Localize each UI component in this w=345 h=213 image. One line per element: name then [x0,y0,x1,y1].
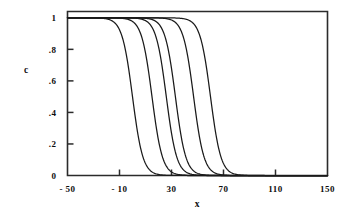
curve-front-5 [68,18,328,176]
x-ticklabel: 110 [268,184,283,194]
curve-front-1 [68,18,328,176]
y-ticklabel: .2 [49,139,57,149]
x-ticklabel: - 50 [59,184,75,194]
y-ticklabel: 0 [52,171,57,181]
curve-front-6 [68,18,328,176]
x-axis-ticklabels: - 50- 103070110150 [59,184,335,194]
plot-frame [68,12,328,176]
y-axis-title: c [24,65,28,75]
y-ticklabel: .6 [49,76,57,86]
x-ticklabel: 30 [167,184,177,194]
chart-svg: 0.2.4.6.81 - 50- 103070110150 x c [0,0,345,213]
curve-front-3 [68,18,328,176]
chart-figure: 0.2.4.6.81 - 50- 103070110150 x c [0,0,345,213]
curve-front-4 [68,18,328,176]
x-ticklabel: 70 [219,184,229,194]
x-ticklabel: 150 [320,184,335,194]
y-axis-tickmarks [68,49,74,144]
curve-front-2 [68,18,328,176]
x-axis-title: x [195,199,200,209]
y-ticklabel: .4 [49,108,57,118]
y-ticklabel: .8 [49,45,57,55]
data-curves [68,18,328,176]
y-ticklabel: 1 [52,13,57,23]
x-ticklabel: - 10 [111,184,127,194]
y-axis-ticklabels: 0.2.4.6.81 [49,13,57,181]
